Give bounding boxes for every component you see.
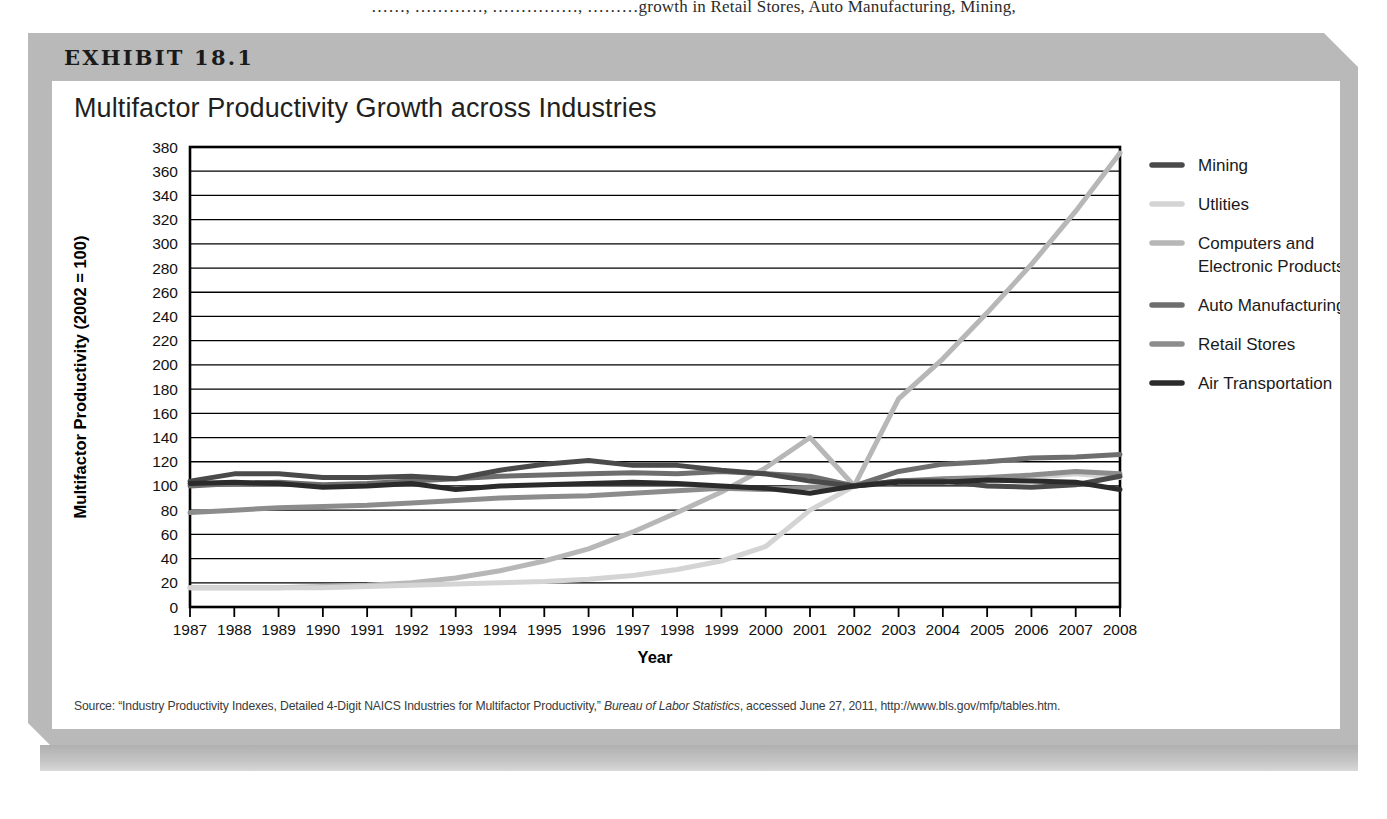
x-axis-tick-label: 1999 bbox=[704, 621, 738, 638]
x-axis-tick-label: 1994 bbox=[483, 621, 518, 638]
y-axis-tick-label: 60 bbox=[161, 526, 179, 543]
y-axis-tick-label: 220 bbox=[152, 332, 178, 349]
x-axis-tick-label: 2002 bbox=[837, 621, 871, 638]
y-axis-tick-label: 120 bbox=[152, 453, 178, 470]
x-axis-tick-label: 1990 bbox=[306, 621, 341, 638]
y-axis-tick-label: 280 bbox=[152, 260, 178, 277]
x-axis-tick-label: 1991 bbox=[350, 621, 384, 638]
legend-label: Auto Manufacturing bbox=[1198, 296, 1340, 315]
y-axis-tick-label: 360 bbox=[152, 163, 178, 180]
x-axis-tick-label: 1988 bbox=[217, 621, 251, 638]
y-axis-tick-label: 20 bbox=[161, 574, 179, 591]
source-prefix: Source: “Industry Productivity Indexes, … bbox=[74, 699, 604, 713]
x-axis-tick-label: 2001 bbox=[793, 621, 827, 638]
legend-item[interactable]: Auto Manufacturing bbox=[1152, 296, 1340, 315]
legend-item[interactable]: Utlities bbox=[1152, 195, 1249, 214]
y-axis-tick-label: 260 bbox=[152, 284, 178, 301]
y-axis-tick-label: 240 bbox=[152, 308, 178, 325]
series-line-computers-and-electronic-products bbox=[190, 153, 1120, 588]
legend-label: Computers and bbox=[1198, 234, 1314, 253]
x-axis-tick-label: 1997 bbox=[616, 621, 650, 638]
y-axis-tick-label: 0 bbox=[169, 599, 178, 616]
x-axis-tick-label: 2008 bbox=[1103, 621, 1137, 638]
legend-label: Mining bbox=[1198, 156, 1248, 175]
legend-item[interactable]: Computers andElectronic Products bbox=[1152, 234, 1340, 276]
x-axis-tick-label: 2007 bbox=[1058, 621, 1092, 638]
legend-label-line2: Electronic Products bbox=[1198, 257, 1340, 276]
legend-label: Retail Stores bbox=[1198, 335, 1295, 354]
legend-item[interactable]: Retail Stores bbox=[1152, 335, 1295, 354]
x-axis-tick-label: 1996 bbox=[571, 621, 605, 638]
page-body-text-fragment: ……, …………, ……………, ………growth in Retail Sto… bbox=[0, 0, 1387, 22]
x-axis-tick-label: 1998 bbox=[660, 621, 694, 638]
y-axis-tick-label: 100 bbox=[152, 477, 178, 494]
x-axis-tick-label: 1993 bbox=[438, 621, 472, 638]
x-axis-title: Year bbox=[638, 648, 673, 666]
chart-plot-area: 0204060801001201401601802002202402602803… bbox=[52, 137, 1340, 697]
multifactor-productivity-line-chart: 0204060801001201401601802002202402602803… bbox=[52, 137, 1340, 697]
y-axis-tick-label: 200 bbox=[152, 356, 178, 373]
y-axis-tick-label: 80 bbox=[161, 502, 179, 519]
exhibit-header-band: EXHIBIT 18.1 bbox=[28, 33, 1358, 81]
plot-border bbox=[190, 147, 1120, 607]
exhibit-card: Multifactor Productivity Growth across I… bbox=[52, 81, 1340, 729]
x-axis-tick-label: 2000 bbox=[748, 621, 783, 638]
y-axis-tick-label: 180 bbox=[152, 381, 178, 398]
x-axis-tick-label: 2003 bbox=[881, 621, 915, 638]
chart-title: Multifactor Productivity Growth across I… bbox=[74, 93, 657, 124]
source-note: Source: “Industry Productivity Indexes, … bbox=[74, 699, 1324, 713]
frame-drop-shadow bbox=[40, 745, 1358, 771]
source-publication: Bureau of Labor Statistics bbox=[604, 699, 740, 713]
x-axis-tick-label: 2006 bbox=[1014, 621, 1048, 638]
legend-label: Utlities bbox=[1198, 195, 1249, 214]
y-axis-tick-label: 40 bbox=[161, 550, 179, 567]
x-axis-tick-label: 1989 bbox=[261, 621, 295, 638]
exhibit-label: EXHIBIT 18.1 bbox=[64, 45, 254, 70]
legend-item[interactable]: Mining bbox=[1152, 156, 1248, 175]
y-axis-tick-label: 340 bbox=[152, 187, 178, 204]
x-axis-tick-label: 1995 bbox=[527, 621, 561, 638]
y-axis-tick-label: 160 bbox=[152, 405, 178, 422]
y-axis-tick-label: 380 bbox=[152, 139, 178, 156]
y-axis-tick-label: 320 bbox=[152, 211, 178, 228]
source-suffix: , accessed June 27, 2011, http://www.bls… bbox=[740, 699, 1061, 713]
x-axis-tick-label: 1987 bbox=[173, 621, 207, 638]
x-axis-tick-label: 2004 bbox=[926, 621, 961, 638]
y-axis-tick-label: 140 bbox=[152, 429, 178, 446]
legend-item[interactable]: Air Transportation bbox=[1152, 374, 1332, 393]
y-axis-title: Multifactor Productivity (2002 = 100) bbox=[71, 236, 89, 519]
legend-label: Air Transportation bbox=[1198, 374, 1332, 393]
x-axis-tick-label: 1992 bbox=[394, 621, 428, 638]
exhibit-frame: EXHIBIT 18.1 Multifactor Productivity Gr… bbox=[28, 33, 1358, 753]
y-axis-tick-label: 300 bbox=[152, 235, 178, 252]
x-axis-tick-label: 2005 bbox=[970, 621, 1004, 638]
